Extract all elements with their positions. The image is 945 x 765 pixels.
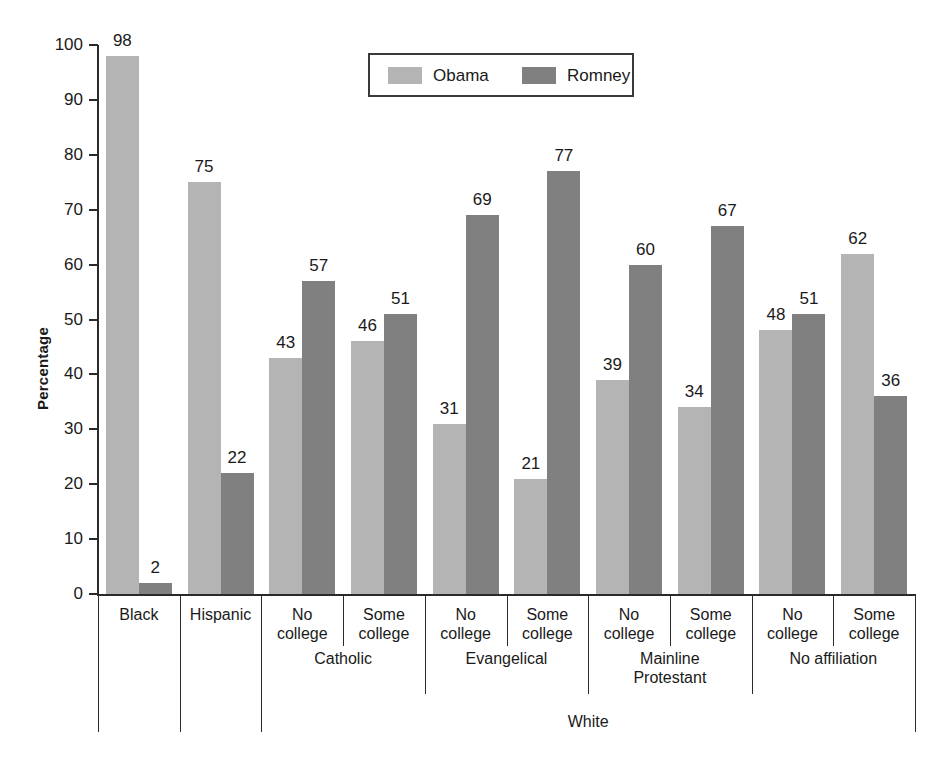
bar-value-label: 69 [456, 191, 509, 208]
category-axis-label: Somecollege [833, 605, 915, 643]
category-axis-label-line: Hispanic [180, 605, 262, 624]
axis-separator [507, 594, 508, 646]
y-axis-label: 40 [37, 365, 83, 382]
bar-romney [629, 265, 662, 594]
group-axis-label: Catholic [261, 649, 424, 668]
bar-value-label: 22 [211, 449, 264, 466]
category-axis-label-line: college [833, 624, 915, 643]
bar-romney [139, 583, 172, 594]
bar-romney [221, 473, 254, 594]
category-axis-label-line: Some [507, 605, 589, 624]
category-axis-label: Nocollege [261, 605, 343, 643]
bar-obama [678, 407, 711, 594]
bar-romney [711, 226, 744, 594]
bar-obama [188, 182, 221, 594]
axis-separator [833, 594, 834, 646]
category-axis-label: Nocollege [425, 605, 507, 643]
category-axis-label: Somecollege [507, 605, 589, 643]
group-separator [752, 594, 753, 694]
axis-separator [343, 594, 344, 646]
bar-romney [792, 314, 825, 594]
category-axis-label-line: college [670, 624, 752, 643]
category-axis-label-line: college [752, 624, 834, 643]
y-axis-tick [89, 428, 98, 430]
bar-value-label: 36 [864, 372, 917, 389]
bar-romney [466, 215, 499, 594]
group-separator [915, 594, 916, 732]
y-axis-label: 20 [37, 475, 83, 492]
bar-value-label: 62 [831, 230, 884, 247]
bar-value-label: 51 [374, 290, 427, 307]
category-axis-label: Somecollege [343, 605, 425, 643]
bar-chart: Percentage 0102030405060708090100 982752… [0, 0, 945, 765]
category-axis-label-line: No [425, 605, 507, 624]
category-axis-label: Nocollege [752, 605, 834, 643]
category-axis-label-line: college [343, 624, 425, 643]
bar-romney [547, 171, 580, 594]
bar-value-label: 51 [782, 290, 835, 307]
category-axis-label-line: Some [343, 605, 425, 624]
legend-item: Romney [522, 55, 630, 95]
y-axis-label: 0 [37, 585, 83, 602]
group-separator [425, 594, 426, 694]
y-axis-label: 50 [37, 311, 83, 328]
y-axis-tick [89, 373, 98, 375]
group-separator [588, 594, 589, 694]
y-axis-label: 70 [37, 201, 83, 218]
category-axis-label-line: Black [98, 605, 180, 624]
bar-value-label: 75 [178, 158, 231, 175]
legend-label: Romney [567, 67, 630, 84]
category-axis-label: Somecollege [670, 605, 752, 643]
y-axis-tick [89, 319, 98, 321]
y-axis-tick [89, 209, 98, 211]
group-axis-label: MainlineProtestant [588, 649, 751, 687]
y-axis-label: 60 [37, 256, 83, 273]
y-axis-tick [89, 483, 98, 485]
axis-separator [670, 594, 671, 646]
bar-obama [351, 341, 384, 594]
category-axis-label: Black [98, 605, 180, 624]
category-axis-label-line: No [261, 605, 343, 624]
bar-value-label: 2 [129, 559, 182, 576]
group-axis-label-line: No affiliation [752, 649, 915, 668]
category-axis-label: Nocollege [588, 605, 670, 643]
bar-value-label: 57 [292, 257, 345, 274]
legend: ObamaRomney [368, 53, 634, 97]
category-axis-label-line: Some [833, 605, 915, 624]
legend-swatch-obama [388, 67, 422, 84]
category-axis-label-line: college [425, 624, 507, 643]
category-axis-label-line: college [507, 624, 589, 643]
category-axis-label-line: No [752, 605, 834, 624]
group-separator [180, 594, 181, 732]
y-axis-line [97, 45, 99, 596]
bar-value-label: 77 [537, 147, 590, 164]
bar-obama [269, 358, 302, 594]
y-axis-label: 10 [37, 530, 83, 547]
category-axis-label: Hispanic [180, 605, 262, 624]
category-axis-label-line: college [588, 624, 670, 643]
group-separator [98, 594, 99, 732]
group-axis-label: No affiliation [752, 649, 915, 668]
legend-label: Obama [433, 67, 489, 84]
bar-obama [841, 254, 874, 594]
bar-obama [596, 380, 629, 594]
bar-value-label: 98 [96, 32, 149, 49]
y-axis-tick [89, 154, 98, 156]
y-axis-tick [89, 264, 98, 266]
bar-romney [384, 314, 417, 594]
group-axis-label-line: Evangelical [425, 649, 588, 668]
bar-value-label: 67 [701, 202, 754, 219]
group-axis-label-line: Protestant [588, 668, 751, 687]
y-axis-label: 30 [37, 420, 83, 437]
legend-swatch-romney [522, 67, 556, 84]
bar-romney [302, 281, 335, 594]
y-axis-label: 80 [37, 146, 83, 163]
y-axis-tick [89, 593, 98, 595]
bar-romney [874, 396, 907, 594]
y-axis-tick [89, 99, 98, 101]
group-axis-label-line: Mainline [588, 649, 751, 668]
y-axis-label: 90 [37, 91, 83, 108]
bar-obama [433, 424, 466, 594]
bar-obama [759, 330, 792, 594]
bar-value-label: 60 [619, 241, 672, 258]
